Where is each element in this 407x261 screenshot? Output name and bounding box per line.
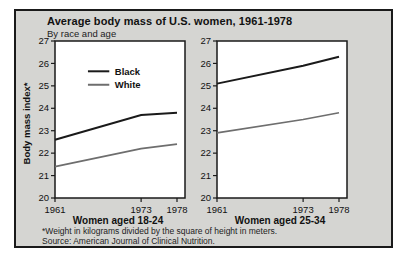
x-tick-label: 1978 <box>328 204 349 215</box>
y-tick-label: 26 <box>38 58 49 69</box>
legend-label-white: White <box>115 79 141 90</box>
y-tick-label: 24 <box>38 102 49 113</box>
y-tick-label: 21 <box>200 170 211 181</box>
y-tick-label: 27 <box>200 35 211 46</box>
y-tick-label: 23 <box>38 125 49 136</box>
y-tick-label: 26 <box>200 58 211 69</box>
y-tick-label: 25 <box>38 80 49 91</box>
x-tick-label: 1973 <box>293 204 314 215</box>
footnote-source: Source: American Journal of Clinical Nut… <box>42 236 215 246</box>
chart-caption-18-24: Women aged 18-24 <box>38 215 198 226</box>
legend-label-black: Black <box>115 66 141 77</box>
chart-women-25-34: 2021222324252627196119731978 <box>200 35 360 220</box>
figure-panel: Average body mass of U.S. women, 1961-19… <box>14 9 393 248</box>
y-tick-label: 22 <box>200 147 211 158</box>
x-tick-label: 1973 <box>131 204 152 215</box>
y-axis-title: Body mass index* <box>21 44 32 204</box>
y-tick-label: 20 <box>200 192 211 203</box>
x-tick-label: 1961 <box>44 204 65 215</box>
plot-area <box>55 41 185 198</box>
x-tick-label: 1978 <box>166 204 187 215</box>
chart-caption-25-34: Women aged 25-34 <box>200 215 360 226</box>
y-tick-label: 21 <box>38 170 49 181</box>
x-tick-label: 1961 <box>206 204 227 215</box>
y-tick-label: 20 <box>38 192 49 203</box>
y-tick-label: 24 <box>200 102 211 113</box>
y-tick-label: 22 <box>38 147 49 158</box>
figure-title: Average body mass of U.S. women, 1961-19… <box>47 15 292 27</box>
plot-area <box>217 41 347 198</box>
y-tick-label: 25 <box>200 80 211 91</box>
footnote-definition: *Weight in kilograms divided by the squa… <box>42 226 277 236</box>
y-tick-label: 23 <box>200 125 211 136</box>
y-tick-label: 27 <box>38 35 49 46</box>
chart-women-18-24: 2021222324252627196119731978BlackWhite <box>38 35 198 220</box>
